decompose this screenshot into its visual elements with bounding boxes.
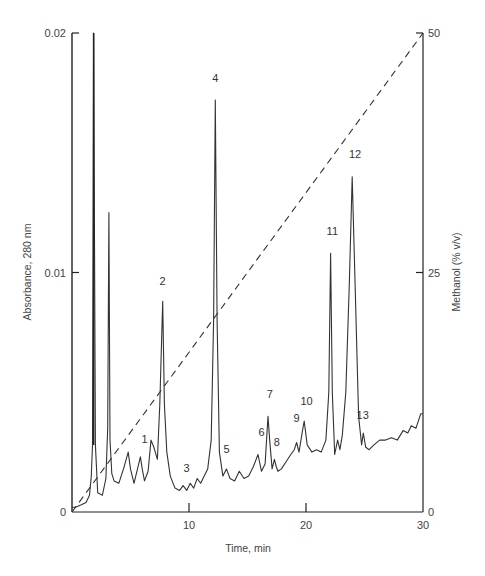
- peak-labels: 12345678910111213: [141, 72, 368, 474]
- chromatogram-chart: 10203000.010.0202550 12345678910111213 T…: [0, 0, 485, 576]
- peak-label-6: 6: [258, 426, 264, 438]
- y2-tick-label: 50: [428, 27, 440, 39]
- peak-label-4: 4: [212, 72, 218, 84]
- y2-tick-label: 0: [428, 506, 434, 518]
- x-tick-label: 20: [300, 519, 312, 531]
- y-axis-title: Absorbance, 280 nm: [21, 223, 33, 320]
- peak-label-5: 5: [223, 443, 229, 455]
- peak-label-3: 3: [184, 462, 190, 474]
- x-tick-label: 10: [183, 519, 195, 531]
- peak-label-8: 8: [274, 436, 280, 448]
- y-tick-label: 0: [60, 506, 66, 518]
- methanol-gradient-line: [72, 33, 423, 512]
- x-tick-label: 30: [417, 519, 429, 531]
- peak-label-11: 11: [327, 225, 338, 237]
- x-axis-title: Time, min: [225, 542, 271, 554]
- peak-label-7: 7: [267, 388, 273, 400]
- peak-label-1: 1: [141, 433, 147, 445]
- y-tick-label: 0.02: [45, 27, 66, 39]
- y-tick-label: 0.01: [45, 267, 66, 279]
- peak-label-12: 12: [349, 148, 361, 160]
- peak-label-9: 9: [294, 412, 300, 424]
- y2-axis-title: Methanol (% v/v): [450, 233, 462, 312]
- peak-label-10: 10: [300, 395, 312, 407]
- peak-label-13: 13: [357, 409, 369, 421]
- peak-label-2: 2: [160, 275, 166, 287]
- y2-tick-label: 25: [428, 267, 440, 279]
